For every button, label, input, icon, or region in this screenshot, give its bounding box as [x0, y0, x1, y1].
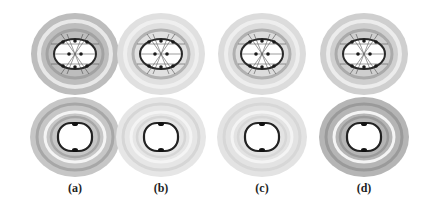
diffraction-pattern-bottom-c	[212, 96, 312, 186]
panel-d: (d)	[314, 0, 414, 206]
diffraction-pattern-top-b	[111, 8, 211, 108]
diffraction-pattern-top-d	[314, 8, 414, 108]
diffraction-pattern-bottom-a	[25, 96, 125, 186]
diffraction-pattern-bottom-b	[111, 96, 211, 186]
diffraction-pattern-top-a	[25, 8, 125, 108]
panel-a: (a)	[25, 0, 125, 206]
panel-b: (b)	[111, 0, 211, 206]
panel-label-d: (d)	[314, 181, 414, 196]
diffraction-pattern-bottom-d	[314, 96, 414, 186]
panel-label-c: (c)	[212, 181, 312, 196]
panel-label-b: (b)	[111, 181, 211, 196]
panel-c: (c)	[212, 0, 312, 206]
panel-label-a: (a)	[25, 181, 125, 196]
diffraction-pattern-top-c	[212, 8, 312, 108]
